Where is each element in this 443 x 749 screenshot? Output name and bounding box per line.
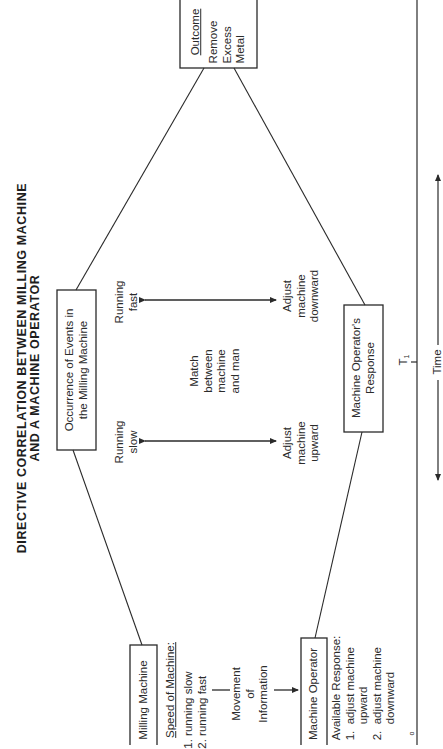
outcome-text: Remove Excess Metal (207, 21, 248, 64)
title-line-2: AND A MACHINE OPERATOR (29, 183, 42, 554)
list-item: upward (357, 636, 371, 741)
speed-of-machine-heading: Speed of Machine: (164, 642, 178, 738)
time-axis-label: Time (431, 346, 443, 377)
list-item: 2. running fast (196, 671, 210, 748)
available-response-heading: Available Response: (330, 636, 344, 741)
movement-of-information-label: Movement of Information (230, 665, 271, 723)
t0-label: To (402, 732, 416, 743)
machine-operator-label: Machine Operator (307, 648, 321, 740)
milling-machine-label: Milling Machine (137, 660, 151, 739)
list-item: 1. running slow (182, 671, 196, 748)
list-item: 2. adjust machine (371, 636, 385, 741)
outcome-heading: Outcome (189, 9, 203, 56)
list-item: downward (384, 636, 398, 741)
response-label: Machine Operator's Response (350, 318, 377, 418)
diagram-title: DIRECTIVE CORRELATION BETWEEN MILLING MA… (16, 183, 42, 554)
t1-label: T1 (397, 355, 411, 366)
match-label: Match between machine and man (188, 349, 242, 394)
available-response-list: Available Response: 1. adjust machine up… (330, 636, 398, 741)
running-slow-label: Running slow (113, 421, 140, 464)
running-fast-label: Running fast (113, 281, 140, 324)
adjust-upward-label: Adjust machine upward (281, 421, 322, 464)
speed-of-machine-list: 1. running slow 2. running fast (182, 671, 209, 748)
adjust-downward-label: Adjust machine downward (281, 270, 322, 322)
occurrence-label: Occurrence of Events in the Milling Mach… (63, 309, 90, 432)
list-item: 1. adjust machine (344, 636, 358, 741)
